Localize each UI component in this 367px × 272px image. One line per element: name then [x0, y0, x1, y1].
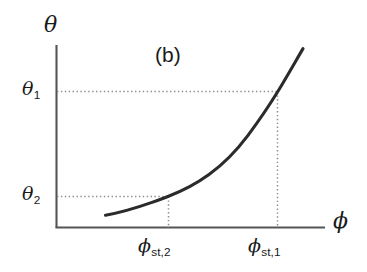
- phi-st-1-subscript: st,1: [261, 245, 280, 258]
- theta-1-subscript: 1: [34, 88, 41, 101]
- data-curve: [106, 49, 304, 216]
- phi-st-1-base: ϕ: [248, 234, 261, 256]
- x-tick-label-phi-st-2: ϕst,2: [138, 236, 170, 255]
- theta-1-base: θ: [22, 77, 33, 99]
- panel-caption: (b): [155, 44, 181, 65]
- y-tick-label-theta-2: θ2: [22, 184, 40, 203]
- y-axis-label: θ: [44, 14, 57, 36]
- theta-2-base: θ: [22, 182, 33, 204]
- plot-canvas: [0, 0, 367, 272]
- y-tick-label-theta-1: θ1: [22, 79, 40, 98]
- phi-st-2-subscript: st,2: [151, 245, 170, 258]
- figure-panel-b: θ ϕ θ1 θ2 ϕst,2 ϕst,1 (b): [0, 0, 367, 272]
- x-tick-label-phi-st-1: ϕst,1: [248, 236, 280, 255]
- phi-st-2-base: ϕ: [138, 234, 151, 256]
- theta-2-subscript: 2: [34, 193, 41, 206]
- x-axis-label: ϕ: [333, 210, 348, 232]
